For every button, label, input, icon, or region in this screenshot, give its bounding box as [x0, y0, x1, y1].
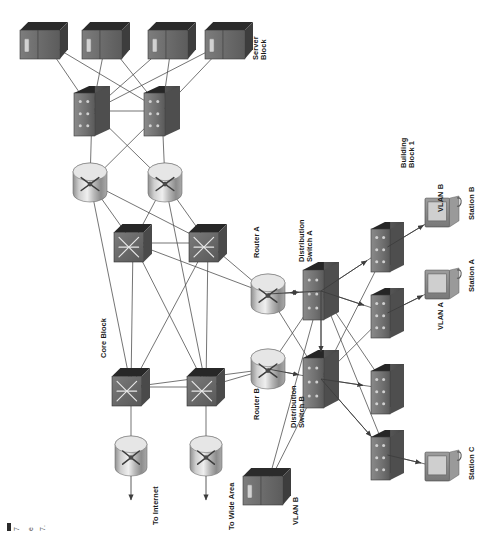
- corner-glyph-2: e: [27, 527, 34, 531]
- link-cs2-cs4: [206, 243, 208, 387]
- label-station-c-line1: Station C: [468, 447, 477, 480]
- station-c: [425, 450, 461, 481]
- label-to-wide-area: To Wide Area: [228, 482, 237, 530]
- label-vlan-b-bottom: VLAN B: [292, 497, 301, 525]
- label-station-c: Station C: [468, 447, 477, 480]
- label-distribution-switch-b-line2: Switch B: [298, 385, 306, 428]
- label-building-block-1-line2: Block 1: [408, 138, 416, 168]
- label-vlan-b-top-line1: VLAN B: [437, 184, 446, 212]
- label-to-internet-line1: To Internet: [152, 486, 161, 525]
- label-vlan-b-top: VLAN B: [437, 184, 446, 212]
- edge-router-internet: [115, 436, 147, 476]
- link-cs1-cs3: [131, 243, 133, 387]
- core-switch-2: [189, 224, 227, 262]
- corner-bar-mark: [7, 523, 11, 531]
- label-server-block: ServerBlock: [252, 36, 269, 60]
- server-block-router-1: [73, 163, 107, 202]
- edge-router-wide-area: [190, 436, 222, 476]
- vlan-b-server: [243, 468, 291, 505]
- station-a: [425, 268, 461, 299]
- arrow-dsb-as4: [321, 379, 371, 436]
- corner-glyph-1: 7: [13, 527, 20, 531]
- label-to-wide-area-line1: To Wide Area: [228, 482, 237, 530]
- label-station-b: Station B: [468, 187, 477, 220]
- label-station-b-line1: Station B: [468, 187, 477, 220]
- network-diagram-page: ServerBlockCore BlockTo InternetTo Wide …: [0, 0, 494, 543]
- label-to-internet: To Internet: [152, 486, 161, 525]
- server-block-server-1: [20, 22, 68, 59]
- server-block-switch-2: [144, 86, 180, 136]
- label-building-block-1: BuildingBlock 1: [400, 138, 417, 168]
- core-switch-1: [114, 224, 152, 262]
- label-station-a: Station A: [468, 259, 477, 292]
- server-block-router-2: [148, 163, 182, 202]
- label-router-a-line1: Router A: [253, 226, 262, 258]
- label-server-block-line2: Block: [260, 36, 268, 60]
- label-distribution-switch-a-line2: Switch A: [306, 219, 314, 262]
- server-block-server-3: [148, 22, 196, 59]
- label-station-a-line1: Station A: [468, 259, 477, 292]
- label-vlan-a: VLAN A: [437, 302, 446, 330]
- label-distribution-switch-a: DistributionSwitch A: [298, 219, 315, 262]
- core-switch-4: [187, 368, 225, 406]
- label-router-a: Router A: [253, 226, 262, 258]
- diagram-canvas: [0, 0, 494, 543]
- server-block-server-4: [205, 22, 253, 59]
- label-core-block: Core Block: [100, 318, 109, 358]
- label-router-b-line1: Router B: [253, 388, 262, 420]
- label-vlan-a-line1: VLAN A: [437, 302, 446, 330]
- server-block-server-2: [82, 22, 130, 59]
- link-cs2-cs3: [131, 243, 208, 387]
- label-router-b: Router B: [253, 388, 262, 420]
- core-switch-3: [112, 368, 150, 406]
- server-block-switch-1: [74, 86, 110, 136]
- label-core-block-line1: Core Block: [100, 318, 109, 358]
- access-switch-3: [371, 364, 404, 414]
- link-rt1-cs3: [90, 183, 131, 388]
- label-vlan-b-bottom-line1: VLAN B: [292, 497, 301, 525]
- node-layer: [20, 22, 461, 505]
- label-distribution-switch-b: DistributionSwitch B: [290, 385, 307, 428]
- corner-glyph-3: 7.: [39, 525, 46, 531]
- page-corner-artifacts: 7 e 7.: [6, 518, 52, 538]
